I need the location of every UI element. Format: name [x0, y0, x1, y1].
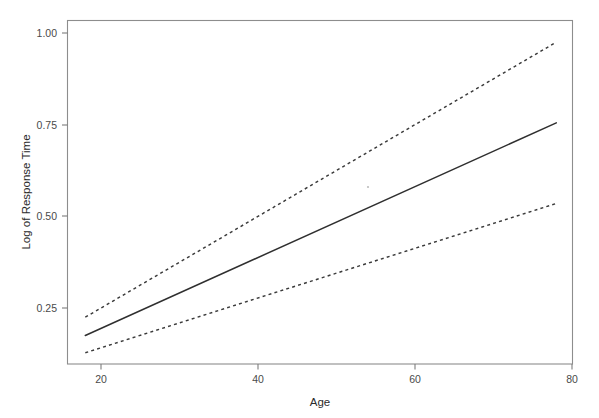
- y-tick-label-3: 1.00: [37, 27, 58, 39]
- y-tick-label-2: 0.75: [37, 119, 58, 131]
- chart-figure: 0.25 0.50 0.75 1.00 Log of Response Time…: [0, 0, 599, 418]
- chart-canvas: 0.25 0.50 0.75 1.00 Log of Response Time…: [0, 0, 599, 418]
- x-tick-label-0: 20: [95, 373, 107, 385]
- y-tick-label-1: 0.50: [37, 210, 58, 222]
- y-axis-title: Log of Response Time: [20, 134, 32, 249]
- x-axis-title: Age: [310, 396, 330, 408]
- x-tick-label-2: 60: [409, 373, 421, 385]
- x-tick-label-1: 40: [252, 373, 264, 385]
- chart-background: [0, 0, 599, 418]
- y-tick-label-0: 0.25: [37, 302, 58, 314]
- x-tick-label-3: 80: [566, 373, 578, 385]
- scan-speck: [367, 186, 369, 188]
